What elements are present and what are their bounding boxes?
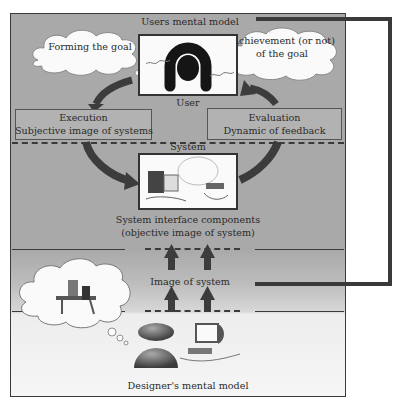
image-designer-divider-right bbox=[255, 311, 344, 312]
designer-mental-model-label: Designer's mental model bbox=[118, 380, 258, 392]
designer-thought-cloud-icon bbox=[12, 250, 142, 350]
designer-figure-icon bbox=[130, 318, 250, 380]
image-designer-divider-center bbox=[145, 310, 240, 312]
image-of-system-label: Image of system bbox=[140, 276, 240, 288]
